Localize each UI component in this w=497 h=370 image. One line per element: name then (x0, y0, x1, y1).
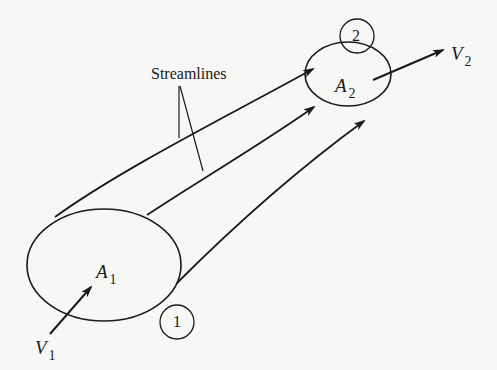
velocity-outlet-label: V2 (451, 44, 472, 63)
area-inlet-subscript: 1 (110, 272, 117, 287)
streamlines-leader-2 (180, 86, 203, 171)
area-outlet-symbol: A (335, 75, 347, 96)
velocity-inlet-symbol: V (35, 337, 47, 358)
streamlines-label: Streamlines (151, 66, 227, 82)
area-outlet-label: A2 (335, 76, 356, 95)
section-2-number: 2 (352, 28, 360, 44)
velocity-outlet-arrow (373, 50, 443, 80)
streamline-bottom (177, 121, 364, 283)
area-outlet-subscript: 2 (349, 86, 356, 101)
streamline-top (55, 69, 313, 217)
velocity-outlet-subscript: 2 (465, 54, 472, 69)
outlet-section-ellipse (305, 42, 391, 106)
area-inlet-symbol: A (96, 261, 108, 282)
area-inlet-label: A1 (96, 262, 117, 281)
stream-tube-diagram: Streamlines A2 A1 V2 V1 2 1 (0, 0, 497, 370)
velocity-inlet-label: V1 (35, 338, 56, 357)
diagram-drawing (0, 0, 497, 370)
velocity-inlet-arrow (50, 287, 91, 334)
velocity-outlet-symbol: V (451, 43, 463, 64)
section-1-number: 1 (173, 314, 181, 330)
streamline-middle (147, 107, 314, 215)
velocity-inlet-subscript: 1 (49, 348, 56, 363)
